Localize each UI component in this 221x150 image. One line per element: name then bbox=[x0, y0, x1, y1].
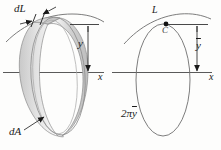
pappus-theorem-figure: dL y x dA L C y 2πy x bbox=[0, 0, 221, 150]
figure-vector-canvas bbox=[0, 0, 221, 150]
label-dL: dL bbox=[14, 3, 26, 14]
label-y-bar: y bbox=[196, 40, 201, 51]
label-2pi-prefix: 2π bbox=[121, 107, 132, 119]
label-L: L bbox=[152, 5, 158, 15]
centroid-path-ellipse bbox=[136, 24, 190, 136]
label-x-axis-right: x bbox=[209, 72, 213, 82]
dL-arrow-right bbox=[43, 7, 56, 14]
label-dA: dA bbox=[9, 126, 21, 137]
label-y-bar-text: y bbox=[196, 39, 201, 51]
ring-back-surface bbox=[19, 22, 58, 136]
label-y: y bbox=[78, 38, 83, 49]
left-panel-group bbox=[3, 7, 104, 137]
dL-arrow-left bbox=[20, 21, 32, 24]
label-x-axis-left: x bbox=[98, 72, 102, 82]
label-C: C bbox=[162, 26, 168, 35]
ring-bottom-lip bbox=[58, 136, 64, 137]
label-2pi-ybar-text: y bbox=[132, 107, 137, 119]
label-2pi-ybar: 2πy bbox=[121, 108, 137, 119]
